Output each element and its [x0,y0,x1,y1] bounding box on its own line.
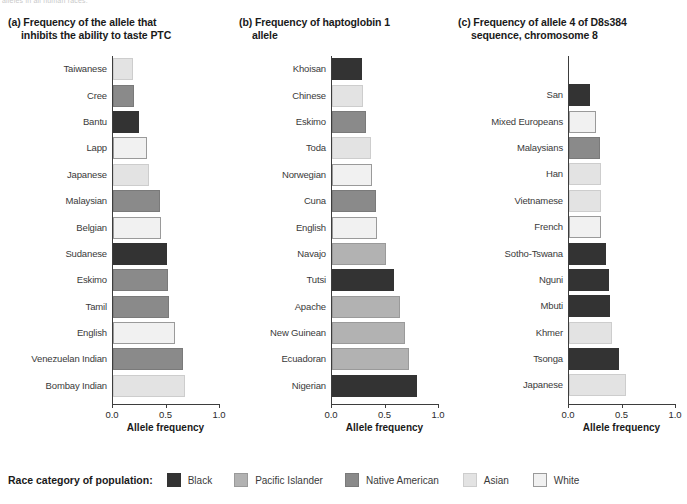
category-label: Mbuti [450,301,568,311]
bar [113,243,167,265]
bar-row: Nigerian [231,373,450,399]
category-label: San [450,90,568,100]
bar [113,296,169,318]
bar-row: Cree [0,82,231,108]
bar [332,269,394,291]
bar [332,348,409,370]
category-label: Venezuelan Indian [0,354,112,364]
bar-track [112,188,231,214]
bar [569,111,596,133]
bar-track [112,346,231,372]
panel-c-title: (c) Frequency of allele 4 of D8s384 sequ… [450,12,687,42]
category-axis-spine [568,56,569,404]
category-label: Eskimo [231,117,331,127]
legend-label: White [554,475,580,486]
category-label: Taiwanese [0,64,112,74]
bar-track [112,373,231,399]
bar-track [331,188,450,214]
axis-title: Allele frequency [346,422,423,433]
category-label: Belgian [0,223,112,233]
axis-tick [331,404,332,408]
bar-row: Venezuelan Indian [0,346,231,372]
bar-row: New Guinean [231,320,450,346]
legend-swatch [167,473,181,487]
bar [113,322,175,344]
bar [569,348,619,370]
bar-row: Eskimo [231,109,450,135]
panel-c-title-line1: (c) Frequency of allele 4 of D8s384 [458,16,627,28]
bar-row: Taiwanese [0,56,231,82]
bar-track [331,294,450,320]
panel-b-axis: 0.00.51.0Allele frequency [331,404,444,430]
axis-tick-label: 0.5 [378,409,391,420]
bar-track [331,82,450,108]
legend-label: Pacific Islander [255,475,323,486]
category-label: Ecuadoran [231,354,331,364]
bar-row: Apache [231,294,450,320]
axis-tick-label: 0.5 [159,409,172,420]
bar-row: Eskimo [0,267,231,293]
bar [113,85,134,107]
panel-a-plot: TaiwaneseCreeBantuLappJapaneseMalaysianB… [0,56,231,404]
bar [569,216,601,238]
bar-row: Navajo [231,241,450,267]
category-label: Lapp [0,143,112,153]
bar [332,58,362,80]
bar-track [568,372,687,398]
bar-track [112,109,231,135]
axis-title: Allele frequency [127,422,204,433]
axis-tick [675,404,676,408]
bar-track [112,241,231,267]
bar [113,348,183,370]
category-label: English [231,223,331,233]
axis-tick [385,404,386,408]
bar-row: Tamil [0,294,231,320]
running-head-text: alleles in all human races. [0,0,687,4]
bar-track [568,161,687,187]
bar-row: Sudanese [0,241,231,267]
bar-track [568,320,687,346]
category-label: Nigerian [231,381,331,391]
legend-label: Asian [484,475,509,486]
panel-b-title: (b) Frequency of haptoglobin 1 allele [231,12,450,42]
category-label: Han [450,169,568,179]
category-label: Tutsi [231,275,331,285]
legend-swatch [463,473,477,487]
bar-track [331,267,450,293]
category-label: Tamil [0,302,112,312]
panel-a-axis: 0.00.51.0Allele frequency [112,404,225,430]
panel-c-title-line2: sequence, chromosome 8 [458,29,681,42]
axis-tick [219,404,220,408]
panel-a-title: (a) Frequency of the allele that inhibit… [0,12,231,42]
bar [332,111,366,133]
bar-row: Lapp [0,135,231,161]
panel-c-axis: 0.00.51.0Allele frequency [568,404,681,430]
category-label: New Guinean [231,328,331,338]
axis-tick [112,404,113,408]
bar-row: Khoisan [231,56,450,82]
bar-track [568,267,687,293]
category-label: Tsonga [450,354,568,364]
category-label: Chinese [231,91,331,101]
bar-track [568,108,687,134]
bar-track [112,162,231,188]
bar-track [331,135,450,161]
bar-row: Belgian [0,214,231,240]
bar-track [568,346,687,372]
category-label: Bantu [0,117,112,127]
bar [113,190,160,212]
bar-row: Norwegian [231,162,450,188]
legend-items: BlackPacific IslanderNative AmericanAsia… [167,473,580,487]
bar [332,217,377,239]
panel-b-title-line2: allele [239,29,444,42]
bar-track [112,320,231,346]
category-label: Cree [0,91,112,101]
axis-tick [166,404,167,408]
axis-tick-label: 1.0 [668,409,681,420]
bar [113,164,149,186]
bar-track [331,346,450,372]
bar [569,163,601,185]
legend-item: White [533,473,580,487]
panel-a-bar-rows: TaiwaneseCreeBantuLappJapaneseMalaysianB… [0,56,231,404]
bar [569,269,609,291]
